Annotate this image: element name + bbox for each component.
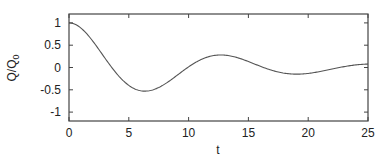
plot-frame	[69, 14, 368, 121]
x-tick-label: 0	[66, 126, 73, 140]
y-tick-label: 0	[54, 61, 61, 75]
y-axis-label: Q/Q0	[5, 54, 21, 81]
x-tick-label: 20	[302, 126, 316, 140]
y-tick-label: -0.5	[40, 83, 61, 97]
x-tick-label: 25	[361, 126, 375, 140]
y-tick-label: 1	[54, 16, 61, 30]
x-axis-label: t	[216, 143, 220, 157]
y-tick-labels: 10.50-0.5-1	[40, 16, 61, 119]
x-tick-label: 15	[242, 126, 256, 140]
x-tick-label: 10	[182, 126, 196, 140]
x-tick-labels: 0510152025	[66, 126, 375, 140]
axis-ticks	[69, 14, 368, 121]
data-series-line	[69, 23, 368, 91]
x-tick-label: 5	[125, 126, 132, 140]
line-chart: 10.50-0.5-1 0510152025 t Q/Q0	[0, 0, 390, 162]
y-tick-label: 0.5	[44, 38, 61, 52]
y-tick-label: -1	[50, 105, 61, 119]
